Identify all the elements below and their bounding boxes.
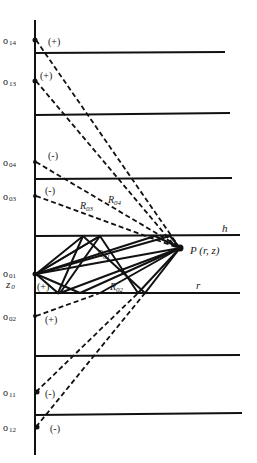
label-o12: o12 [3,422,17,434]
layer-line-1 [35,52,225,53]
image-rays [36,40,178,427]
sign-o13: (+) [40,70,52,82]
label-o02: o02 [3,311,17,323]
label-o03: o03 [3,191,17,203]
dot-o02 [33,314,37,318]
ray-via-h-1 [36,236,180,293]
dot-o04 [33,160,37,164]
label-R03: R03 [79,200,94,213]
dot-o13 [33,79,38,84]
image-source-diagram: o14 (+) o13 (+) o04 (-) o03 (-) o01 z0 (… [0,0,257,463]
dot-o12 [35,425,40,430]
layer-line-6 [35,355,240,356]
ray-o02 [36,293,100,316]
label-r: r [196,279,201,291]
source-dots [33,38,184,430]
real-rays [36,236,180,293]
sign-o11: (-) [45,388,55,400]
ray-o14 [36,40,177,244]
dot-o03 [33,194,37,198]
sign-o01: (+) [37,281,49,293]
dot-o14 [33,38,38,43]
layer-line-7 [35,413,242,415]
label-o13: o13 [3,76,17,88]
dot-o01 [33,272,38,277]
ray-o04 [36,162,178,246]
label-o14: o14 [3,35,17,47]
layer-line-h [35,235,240,236]
layer-lines [35,52,242,415]
sign-o03: (-) [45,185,55,197]
label-h: h [222,222,228,234]
label-o04: o04 [3,157,17,169]
ray-o11 [36,293,138,392]
sign-o14: (+) [48,36,60,48]
sign-o04: (-) [48,150,58,162]
field-point-dot [177,245,184,252]
label-o11: o11 [3,387,16,399]
sign-o02: (+) [45,314,57,326]
dot-o11 [35,390,40,395]
label-R01: R01 [96,248,110,261]
label-field-point: P (r, z) [189,244,220,257]
sign-o12: (-) [50,423,60,435]
